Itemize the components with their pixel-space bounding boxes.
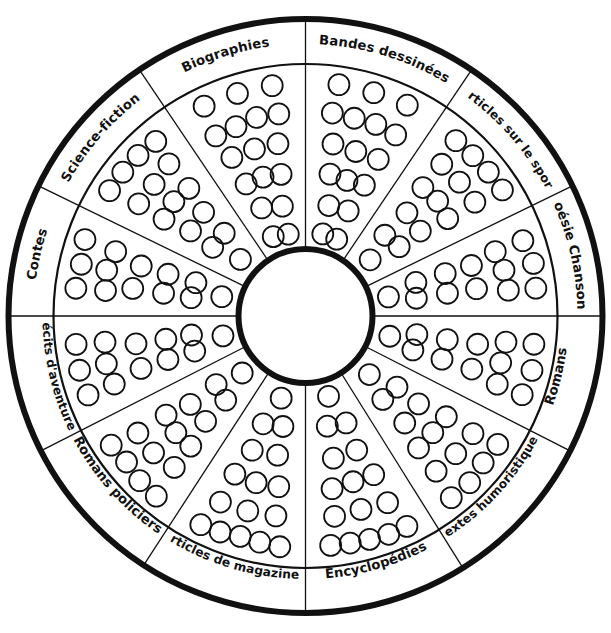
wheel-svg: Bandes dessinéesArticles sur le sportPoé… bbox=[0, 0, 611, 633]
center-hub-circle[interactable] bbox=[239, 249, 373, 383]
reading-wheel-diagram: Bandes dessinéesArticles sur le sportPoé… bbox=[0, 0, 611, 633]
